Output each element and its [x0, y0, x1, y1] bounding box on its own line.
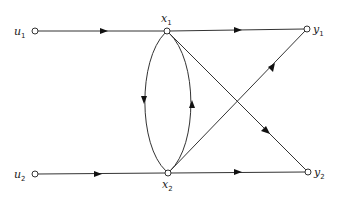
node-x2: [165, 170, 171, 176]
label-x1: x1: [161, 12, 172, 27]
node-y1: [304, 26, 310, 32]
arrow-x2-y1: [268, 63, 275, 72]
arrow-x1-x2-left: [141, 96, 147, 104]
label-y2: y2: [313, 166, 325, 181]
arrow-x1-y1: [234, 27, 242, 33]
label-u1: u1: [14, 25, 26, 40]
edge-x2-x1-right: [169, 33, 191, 171]
label-x2: x2: [162, 178, 173, 193]
arrow-u1-x1: [100, 28, 108, 34]
arrow-x2-y2: [234, 169, 242, 175]
edge-x1-x2-left: [145, 33, 166, 171]
node-u1: [32, 28, 38, 34]
edge-x2-y1: [170, 31, 305, 171]
node-u2: [32, 171, 38, 177]
label-u2: u2: [14, 168, 26, 183]
arrow-u2-x2: [94, 171, 102, 177]
node-x1: [164, 28, 170, 34]
node-y2: [305, 169, 311, 175]
label-y1: y1: [312, 23, 324, 38]
arrow-x1-y2: [261, 126, 270, 134]
arrow-x2-x1-right: [189, 100, 195, 108]
signal-flow-graph: u1 x1 y1 u2 x2 y2: [0, 0, 338, 202]
